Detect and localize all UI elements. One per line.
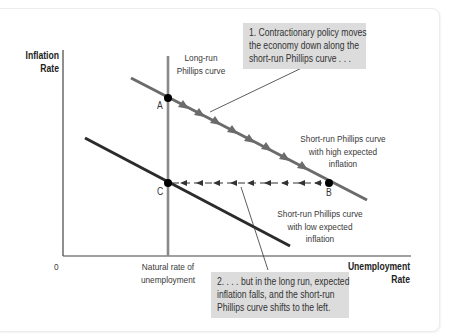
srpc-high-label: Short-run Phillips curve with high expec… — [287, 133, 399, 171]
callout-long-run-shift: 2. . . . but in the long run, expected i… — [211, 272, 349, 318]
point-c-label: C — [157, 186, 163, 199]
callout-2-line1: 2. . . . but in the long run, expected — [217, 275, 325, 288]
srpc-high-label-line2: with high expected — [287, 146, 399, 159]
point-b-label: B — [326, 187, 332, 200]
origin-label: 0 — [54, 261, 59, 274]
srpc-high-label-line3: inflation — [287, 158, 399, 171]
callout-2-line2: inflation falls, and the short-run — [217, 288, 325, 301]
callout-1-line2: the economy down along the — [249, 39, 344, 52]
long-run-curve-label: Long-run Phillips curve — [162, 52, 239, 77]
srpc-low-label-line3: inflation — [264, 233, 376, 246]
callout-1-line1: 1. Contractionary policy moves — [249, 26, 344, 39]
natural-rate-line2: unemployment — [125, 274, 211, 287]
long-run-label-line1: Long-run — [162, 52, 239, 65]
callout-2-line3: Phillips curve shifts to the left. — [217, 301, 325, 314]
callout-1-line3: short-run Phillips curve . . . — [249, 52, 344, 65]
srpc-low-label-line1: Short-run Phillips curve — [264, 208, 376, 221]
srpc-low-label: Short-run Phillips curve with low expect… — [264, 208, 376, 246]
point-b — [325, 179, 333, 187]
srpc-high-label-line1: Short-run Phillips curve — [287, 133, 399, 146]
point-a — [164, 94, 172, 102]
callout-contractionary-policy: 1. Contractionary policy moves the econo… — [243, 23, 366, 69]
shift-left-arrows — [180, 180, 321, 186]
y-axis-label: Inflation Rate — [8, 49, 59, 75]
srpc-low-expected — [85, 138, 290, 246]
natural-rate-label: Natural rate of unemployment — [125, 261, 211, 286]
y-axis-label-line2: Rate — [8, 62, 59, 75]
y-axis-label-line1: Inflation — [8, 49, 59, 62]
srpc-low-label-line2: with low expected — [264, 221, 376, 234]
long-run-label-line2: Phillips curve — [162, 65, 239, 78]
point-c — [164, 179, 172, 187]
point-a-label: A — [157, 100, 163, 113]
natural-rate-line1: Natural rate of — [125, 261, 211, 274]
